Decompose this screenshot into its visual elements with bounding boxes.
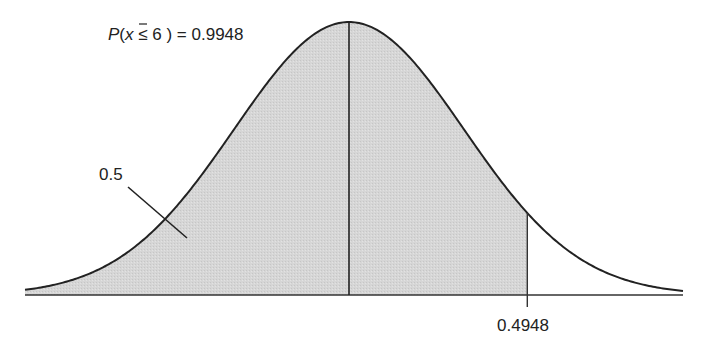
cutoff-area-label: 0.4948 [497,316,549,335]
half-area-label: 0.5 [99,165,123,184]
normal-distribution-chart: P(x ≤ 6 ) = 0.9948 0.5 0.4948 [0,0,705,350]
probability-label: P(x ≤ 6 ) = 0.9948 [108,25,244,44]
shaded-area [25,22,527,295]
